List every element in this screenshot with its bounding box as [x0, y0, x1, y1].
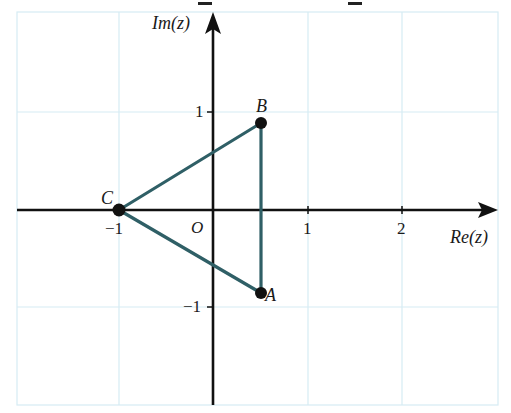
grid: [17, 12, 498, 405]
x-tick-label-2: 2: [397, 220, 406, 237]
imaginary-axis-label: Im(z): [152, 14, 190, 32]
x-tick-label-1: 1: [303, 220, 312, 237]
point-b-marker: [255, 117, 267, 129]
clipped-text-fragment: [348, 0, 362, 5]
x-tick-label-neg1: −1: [105, 220, 123, 237]
triangle-abc: [119, 123, 261, 293]
axes: [17, 26, 485, 405]
origin-label: O: [191, 219, 203, 236]
clipped-text-fragment: [198, 0, 212, 5]
real-axis-label: Re(z): [450, 228, 488, 246]
edge-ac: [119, 210, 261, 293]
complex-plane-diagram: Im(z) Re(z) O −1 1 2 1 −1 A B C: [0, 0, 511, 413]
point-c-label: C: [101, 189, 113, 207]
edge-cb: [119, 123, 261, 210]
point-a-label: A: [265, 286, 276, 304]
y-tick-label-neg1: −1: [183, 298, 201, 315]
point-b-label: B: [256, 97, 267, 115]
diagram-canvas: [0, 0, 511, 413]
point-c-marker: [113, 204, 126, 217]
y-tick-label-1: 1: [195, 103, 204, 120]
